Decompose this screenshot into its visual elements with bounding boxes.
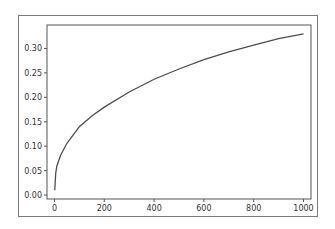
x-tick-label: 1000 <box>293 204 313 213</box>
y-tick-label: 0.30 <box>24 44 42 53</box>
y-tick-label: 0.15 <box>24 118 42 127</box>
y-tick-label: 0.10 <box>24 142 42 151</box>
x-tick-label: 600 <box>196 204 211 213</box>
axes-box <box>47 25 311 199</box>
x-tick-label: 400 <box>146 204 161 213</box>
x-axis: 02004006008001000 <box>52 199 314 213</box>
y-tick-label: 0.20 <box>24 93 42 102</box>
x-tick-label: 800 <box>246 204 261 213</box>
y-tick-label: 0.25 <box>24 69 42 78</box>
x-tick-label: 200 <box>97 204 112 213</box>
y-axis: 0.000.050.100.150.200.250.30 <box>24 44 47 200</box>
data-line <box>55 34 304 190</box>
line-chart: 0.000.050.100.150.200.250.30 02004006008… <box>0 0 335 229</box>
y-tick-label: 0.00 <box>24 191 42 200</box>
x-tick-label: 0 <box>52 204 57 213</box>
y-tick-label: 0.05 <box>24 167 42 176</box>
